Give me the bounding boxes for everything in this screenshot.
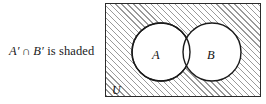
circle-label-a: A xyxy=(152,49,160,62)
caption-intersection-operator: ∩ xyxy=(20,44,34,58)
venn-diagram-figure: A′∩B′ is shaded A B U xyxy=(0,0,266,104)
circle-label-b: B xyxy=(207,49,215,62)
figure-caption: A′∩B′ is shaded xyxy=(9,42,103,60)
caption-set-b-complement: B′ xyxy=(33,44,44,58)
caption-set-a-complement: A′ xyxy=(9,44,20,58)
universal-set-rectangle: A B U xyxy=(105,3,261,97)
venn-circles-svg xyxy=(106,4,261,97)
caption-predicate-text: is shaded xyxy=(47,44,94,58)
universal-set-label: U xyxy=(112,84,121,96)
